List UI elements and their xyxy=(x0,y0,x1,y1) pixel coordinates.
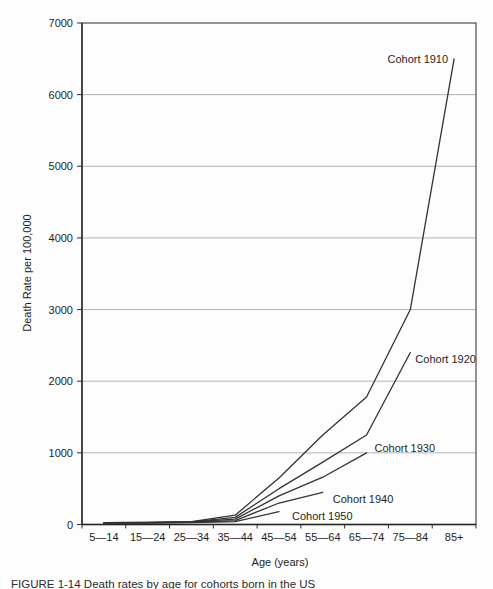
y-tick-label: 7000 xyxy=(49,17,73,29)
y-tick-label: 1000 xyxy=(49,447,73,459)
y-tick-label: 2000 xyxy=(49,375,73,387)
figure-caption: FIGURE 1-14 Death rates by age for cohor… xyxy=(11,578,491,589)
chart-generated-layer: 010002000300040005000600070005—1415—2425… xyxy=(49,17,476,543)
series-label-cohort-1920: Cohort 1920 xyxy=(415,353,476,365)
x-tick-label: 5—14 xyxy=(89,531,118,543)
series-label-cohort-1910: Cohort 1910 xyxy=(388,53,449,65)
x-tick-label: 65—74 xyxy=(349,531,384,543)
y-tick-label: 4000 xyxy=(49,232,73,244)
x-tick-label: 35—44 xyxy=(217,531,252,543)
series-label-cohort-1930: Cohort 1930 xyxy=(375,442,436,454)
y-tick-label: 3000 xyxy=(49,304,73,316)
y-tick-label: 0 xyxy=(67,519,73,531)
y-tick-label: 5000 xyxy=(49,160,73,172)
x-tick-label: 55—64 xyxy=(305,531,340,543)
x-tick-label: 85+ xyxy=(445,531,464,543)
series-label-cohort-1940: Cohort 1940 xyxy=(333,493,394,505)
figure-panel: 010002000300040005000600070005—1415—2425… xyxy=(0,0,493,589)
x-tick-label: 15—24 xyxy=(130,531,165,543)
y-axis-title: Death Rate per 100,000 xyxy=(21,214,33,331)
x-tick-label: 25—34 xyxy=(174,531,209,543)
x-tick-label: 45—54 xyxy=(261,531,296,543)
series-label-cohort-1950: Cohort 1950 xyxy=(292,510,353,522)
x-axis-title: Age (years) xyxy=(252,556,309,568)
y-tick-label: 6000 xyxy=(49,89,73,101)
x-tick-label: 75—84 xyxy=(393,531,428,543)
cohort-death-rate-chart: 010002000300040005000600070005—1415—2425… xyxy=(0,0,493,589)
